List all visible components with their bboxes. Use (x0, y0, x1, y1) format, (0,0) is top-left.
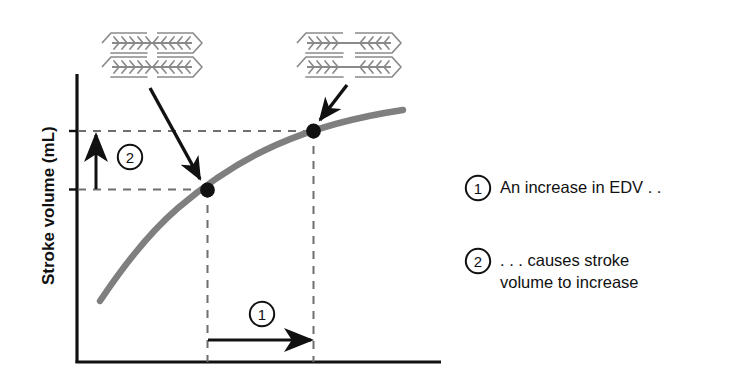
pointer-arrow-stretched (320, 85, 347, 120)
sarcomere-stretched-lower-unit (297, 57, 401, 77)
pointer-arrow-shortened (150, 88, 200, 179)
legend-item-1-label: An increase in EDV . . (500, 177, 661, 199)
guide-lines-group (78, 131, 314, 362)
stroke-volume-curve (100, 110, 403, 301)
legend-2-number: 2 (474, 253, 482, 270)
curve-path (100, 110, 403, 301)
sarcomere-shortened-lower-unit (102, 57, 202, 77)
legend-item-2-label: . . . causes stroke volume to increase (500, 250, 639, 294)
y-axis-label-text: Stroke volume (mL) (39, 126, 58, 285)
data-point-increased (306, 124, 321, 139)
figure-canvas: Stroke volume (mL) (0, 0, 745, 378)
callout-2-number: 2 (126, 149, 134, 166)
legend-1-number: 1 (474, 180, 482, 197)
data-point-baseline (200, 183, 215, 198)
sarcomere-shortened (102, 33, 202, 77)
callout-horizontal-arrow-group: 1 (208, 302, 311, 340)
y-axis-label: Stroke volume (mL) (39, 126, 58, 285)
sarcomere-shortened-upper-unit (102, 33, 202, 53)
callout-1-number: 1 (258, 306, 266, 323)
sarcomere-stretched-upper-unit (297, 33, 401, 53)
legend-circles-group: 1 2 (466, 176, 490, 273)
sarcomere-stretched (297, 33, 401, 77)
callout-vertical-arrow-group: 2 (96, 135, 142, 189)
axes-group (69, 74, 441, 363)
